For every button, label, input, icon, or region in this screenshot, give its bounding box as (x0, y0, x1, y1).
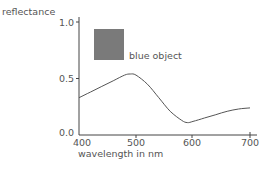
x-axis-label: wavelength in nm (78, 148, 163, 159)
x-tick-label: 600 (183, 137, 201, 148)
y-tick-label: 1.0 (59, 17, 74, 28)
y-ticks: 1.0 0.5 0.0 (59, 17, 79, 139)
legend-swatch (94, 29, 124, 60)
reflectance-chart: reflectance 1.0 0.5 0.0 400 500 600 700 … (0, 0, 270, 170)
x-tick-label: 400 (73, 137, 91, 148)
reflectance-curve (79, 74, 250, 123)
legend-label: blue object (129, 50, 182, 61)
x-tick-label: 700 (241, 137, 259, 148)
y-tick-label: 0.0 (59, 127, 74, 138)
x-ticks: 400 500 600 700 (73, 132, 259, 148)
x-tick-label: 500 (127, 137, 145, 148)
y-tick-label: 0.5 (59, 73, 74, 84)
y-axis-label: reflectance (2, 6, 55, 17)
